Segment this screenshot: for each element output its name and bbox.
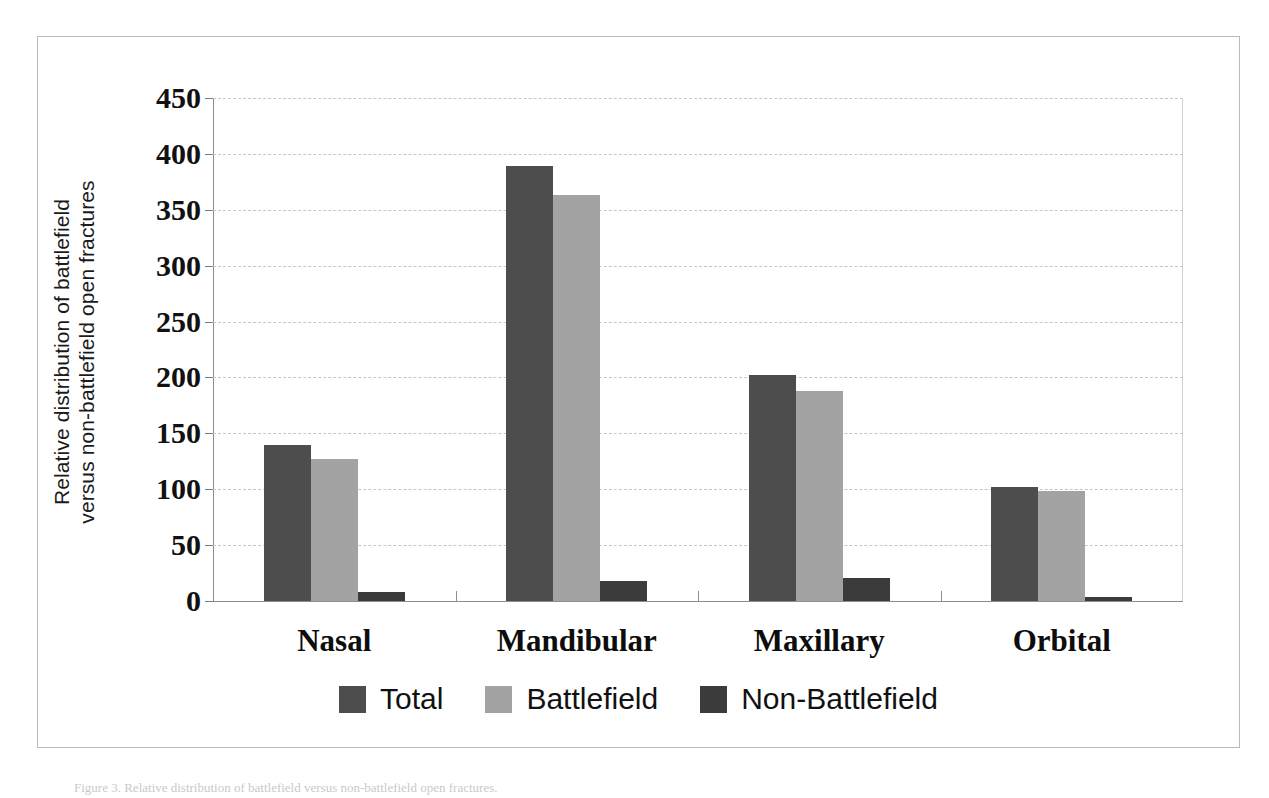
y-tick-100	[205, 489, 213, 490]
y-tick-label-200: 200	[156, 360, 201, 394]
figure-frame: Relative distribution of battlefield ver…	[37, 36, 1240, 748]
legend-label: Battlefield	[526, 682, 658, 716]
legend-label: Non-Battlefield	[741, 682, 938, 716]
bar-mandibular-total	[506, 166, 553, 601]
y-tick-400	[205, 154, 213, 155]
y-tick-label-100: 100	[156, 472, 201, 506]
y-tick-150	[205, 433, 213, 434]
category-label-nasal: Nasal	[297, 623, 371, 659]
category-label-maxillary: Maxillary	[754, 623, 885, 659]
y-tick-50	[205, 545, 213, 546]
legend-item-non-battlefield[interactable]: Non-Battlefield	[700, 682, 938, 716]
legend-label: Total	[380, 682, 443, 716]
figure-caption: Figure 3. Relative distribution of battl…	[74, 780, 497, 798]
bar-maxillary-total	[749, 375, 796, 601]
category-label-orbital: Orbital	[1013, 623, 1111, 659]
bar-group-orbital	[941, 98, 1184, 601]
bar-nasal-total	[264, 445, 311, 601]
bar-maxillary-non-battlefield	[843, 578, 890, 601]
bar-group-nasal	[213, 98, 456, 601]
y-tick-450	[205, 98, 213, 99]
x-axis-category-labels: NasalMandibularMaxillaryOrbital	[213, 623, 1183, 673]
legend-item-battlefield[interactable]: Battlefield	[485, 682, 658, 716]
bar-group-mandibular	[456, 98, 699, 601]
y-tick-label-450: 450	[156, 81, 201, 115]
legend-swatch-icon	[700, 686, 727, 713]
y-axis-title-line-2: versus non-battlefield open fractures	[75, 180, 100, 523]
legend-item-total[interactable]: Total	[339, 682, 443, 716]
bar-orbital-battlefield	[1038, 491, 1085, 601]
legend-swatch-icon	[485, 686, 512, 713]
bar-group-maxillary	[698, 98, 941, 601]
bar-orbital-total	[991, 487, 1038, 601]
bar-orbital-non-battlefield	[1085, 597, 1132, 601]
bar-mandibular-battlefield	[553, 195, 600, 601]
y-tick-250	[205, 322, 213, 323]
y-tick-label-400: 400	[156, 137, 201, 171]
bar-mandibular-non-battlefield	[600, 581, 647, 601]
bar-nasal-non-battlefield	[358, 592, 405, 601]
y-tick-300	[205, 266, 213, 267]
category-label-mandibular: Mandibular	[497, 623, 657, 659]
y-axis-title-line-1: Relative distribution of battlefield	[50, 199, 75, 505]
y-axis-title: Relative distribution of battlefield ver…	[47, 72, 103, 632]
chart-legend: TotalBattlefieldNon-Battlefield	[38, 682, 1239, 716]
gridline-0	[213, 601, 1183, 602]
bar-nasal-battlefield	[311, 459, 358, 601]
y-tick-label-50: 50	[171, 528, 201, 562]
y-tick-350	[205, 210, 213, 211]
bar-maxillary-battlefield	[796, 391, 843, 601]
y-tick-label-300: 300	[156, 249, 201, 283]
plot-area: 450400350300250200150100500	[213, 62, 1183, 601]
y-tick-label-250: 250	[156, 305, 201, 339]
y-tick-label-150: 150	[156, 416, 201, 450]
y-tick-200	[205, 377, 213, 378]
plot-canvas: 450400350300250200150100500	[213, 98, 1183, 601]
y-tick-0	[205, 601, 213, 602]
y-tick-label-0: 0	[186, 584, 201, 618]
y-tick-label-350: 350	[156, 193, 201, 227]
legend-swatch-icon	[339, 686, 366, 713]
